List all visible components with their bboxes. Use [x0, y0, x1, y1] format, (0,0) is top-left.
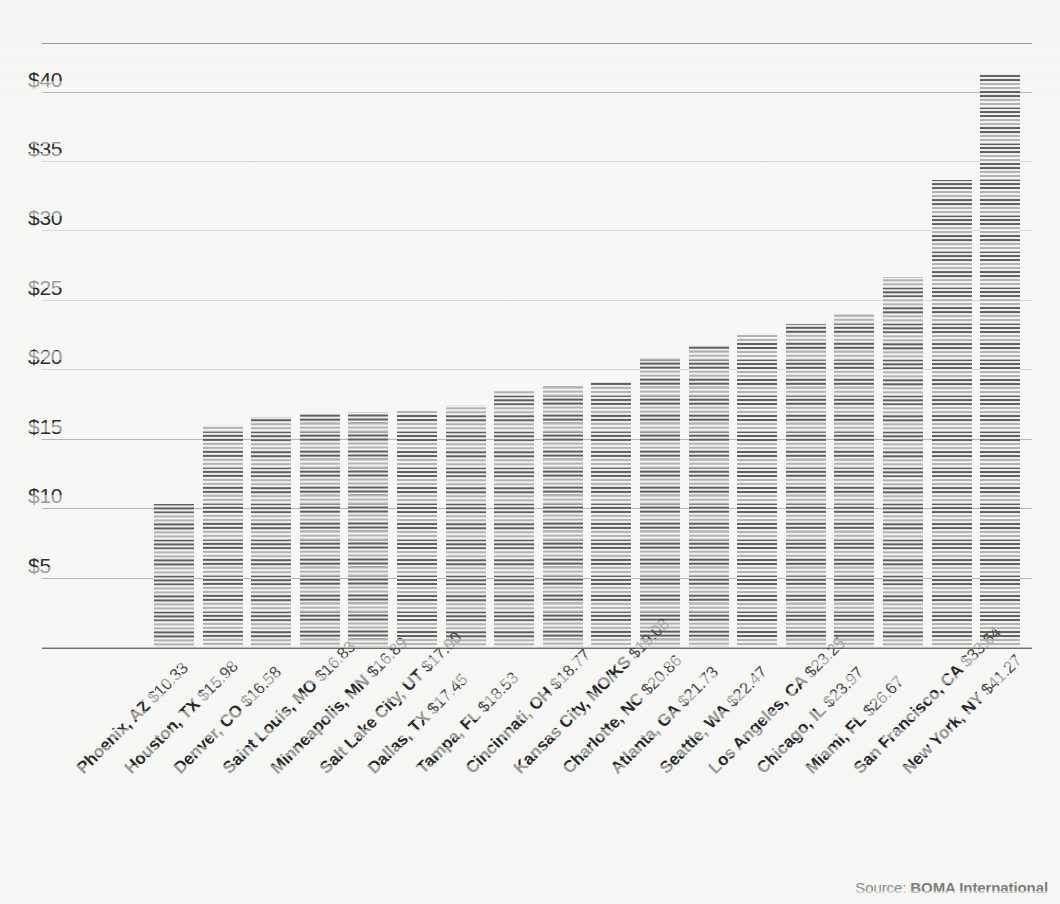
bar-minneapolis-mn — [348, 412, 388, 647]
x-label-value: $15.98 — [194, 657, 242, 705]
bar-seattle-wa — [737, 335, 777, 647]
bar-miami-fl — [883, 277, 923, 647]
y-tick-label-5: $5 — [28, 554, 86, 578]
y-tick-label-25: $25 — [28, 276, 86, 300]
x-label-value: $18.53 — [474, 668, 522, 716]
source-name: BOMA International — [910, 879, 1048, 896]
bar-dallas-tx — [446, 405, 486, 647]
bar-cincinnati-oh — [543, 386, 583, 647]
bar-charlotte-nc — [640, 357, 680, 647]
x-label-value: $41.27 — [977, 651, 1025, 699]
x-axis-category-labels: Phoenix, AZ $10.33Houston, TX $15.98Denv… — [0, 649, 1060, 864]
source-attribution: Source: BOMA International — [855, 879, 1048, 896]
bar-houston-tx — [203, 425, 243, 647]
x-label-value: $16.58 — [237, 663, 285, 711]
bars-group — [154, 43, 1032, 647]
bar-saint-louis-mo — [300, 413, 340, 647]
x-label-value: $10.33 — [143, 659, 191, 707]
bar-tampa-fl — [494, 390, 534, 647]
chart-figure: $5$10$15$20$25$30$35$40 Phoenix, AZ $10.… — [0, 0, 1060, 904]
y-tick-label-30: $30 — [28, 206, 86, 230]
y-tick-label-10: $10 — [28, 484, 86, 508]
bar-atlanta-ga — [689, 345, 729, 647]
x-label-value: $18.77 — [546, 645, 594, 693]
y-tick-label-40: $40 — [28, 68, 86, 92]
source-label: Source: — [855, 879, 906, 896]
bar-phoenix-az — [154, 504, 194, 647]
bar-denver-co — [251, 417, 291, 647]
bar-san-francisco-ca — [932, 180, 972, 647]
bar-los-angeles-ca — [786, 324, 826, 647]
plot-area: $5$10$15$20$25$30$35$40 — [42, 43, 1032, 649]
bar-kansas-city-mo-ks — [591, 382, 631, 647]
bar-chicago-il — [834, 314, 874, 647]
y-tick-label-20: $20 — [28, 345, 86, 369]
x-label-value: $22.47 — [723, 663, 771, 711]
y-tick-label-35: $35 — [28, 137, 86, 161]
y-tick-label-15: $15 — [28, 415, 86, 439]
bar-new-york-ny — [980, 74, 1020, 647]
bar-salt-lake-city-ut — [397, 411, 437, 647]
